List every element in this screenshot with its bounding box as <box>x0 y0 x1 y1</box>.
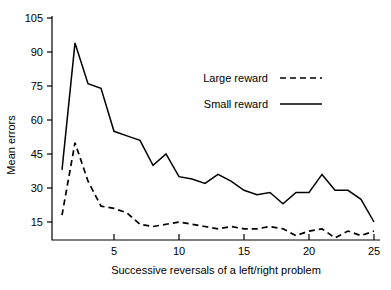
y-tick-label: 60 <box>31 114 43 126</box>
legend-label-large-reward: Large reward <box>203 72 268 84</box>
legend-label-small-reward: Small reward <box>204 98 268 110</box>
x-tick-label: 10 <box>173 245 185 257</box>
y-axis-title: Mean errors <box>5 115 17 175</box>
y-tick-label: 90 <box>31 46 43 58</box>
y-tick-label: 30 <box>31 182 43 194</box>
y-tick-label: 15 <box>31 216 43 228</box>
x-axis-title: Successive reversals of a left/right pro… <box>111 264 321 276</box>
chart-figure: 153045607590105 510152025 Mean errors Su… <box>0 0 391 290</box>
chart-background <box>0 0 391 290</box>
chart-canvas: 153045607590105 510152025 Mean errors Su… <box>0 0 391 290</box>
y-tick-label: 105 <box>25 12 43 24</box>
x-tick-label: 5 <box>111 245 117 257</box>
x-tick-label: 20 <box>303 245 315 257</box>
x-tick-label: 15 <box>238 245 250 257</box>
y-tick-label: 45 <box>31 148 43 160</box>
x-tick-label: 25 <box>368 245 380 257</box>
y-tick-label: 75 <box>31 80 43 92</box>
